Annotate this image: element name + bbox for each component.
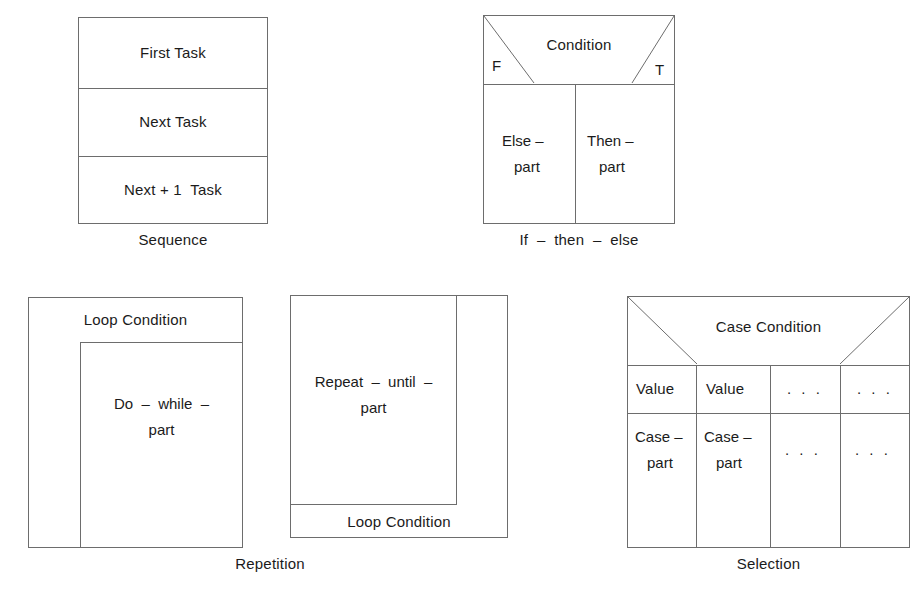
then-branch-line-2: part <box>587 154 625 180</box>
selection-case-cell-3: . . . <box>770 420 840 480</box>
repeat-until-body-line-1: Repeat – until – <box>315 369 433 395</box>
repeat-until-diagram: Repeat – until – part Loop Condition <box>290 295 508 538</box>
diagram-canvas: First Task Next Task Next + 1 Task Seque… <box>0 0 923 593</box>
if-then-else-caption: If – then – else <box>473 231 685 248</box>
true-marker: T <box>655 61 664 78</box>
condition-label: Condition <box>546 33 611 56</box>
repeat-until-loop-condition-cell: Loop Condition <box>290 505 508 538</box>
else-branch-cell: Else – part <box>483 84 575 224</box>
selection-case-cell-1: Case – part <box>627 420 696 480</box>
do-while-diagram: Loop Condition Do – while – part <box>28 297 243 548</box>
selection-value-row-divider <box>627 413 910 414</box>
else-branch-line-1: Else – <box>502 128 544 154</box>
case-condition-right-diagonal <box>840 297 909 364</box>
selection-case-cell-4: . . . <box>840 420 910 480</box>
repeat-until-loop-condition-label: Loop Condition <box>347 510 451 533</box>
sequence-row-1: First Task <box>78 17 268 88</box>
selection-case-line1-4: . . . <box>855 437 891 463</box>
sequence-row-2: Next Task <box>78 88 268 156</box>
sequence-row-1-label: First Task <box>140 41 206 64</box>
repeat-until-body-cell: Repeat – until – part <box>290 325 457 465</box>
selection-value-cell-3: . . . <box>770 365 840 413</box>
condition-label-cell: Condition <box>523 23 635 67</box>
selection-case-line2-1: part <box>635 450 673 476</box>
sequence-diagram: First Task Next Task Next + 1 Task <box>78 17 268 224</box>
selection-caption: Selection <box>627 555 910 572</box>
then-branch-line-1: Then – <box>587 128 634 154</box>
do-while-loop-condition-label: Loop Condition <box>84 308 188 331</box>
selection-value-label-2: Value <box>706 377 744 400</box>
repetition-caption: Repetition <box>180 555 360 572</box>
selection-value-label-1: Value <box>636 377 674 400</box>
sequence-caption: Sequence <box>78 231 268 248</box>
selection-value-label-4: . . . <box>857 377 893 400</box>
sequence-row-3-label: Next + 1 Task <box>124 178 222 201</box>
if-then-else-diagram: Condition F T Else – part Then – part <box>483 15 675 224</box>
selection-case-line1-2: Case – <box>704 424 752 450</box>
sequence-row-2-label: Next Task <box>139 110 206 133</box>
selection-case-line1-3: . . . <box>785 437 821 463</box>
selection-diagram: Case Condition Value Value . . . . . . C… <box>627 296 910 548</box>
do-while-body-line-2: part <box>149 417 175 443</box>
do-while-body-cell: Do – while – part <box>80 342 243 492</box>
false-marker: F <box>492 57 501 74</box>
selection-value-cell-1: Value <box>627 365 696 413</box>
do-while-body-line-1: Do – while – <box>114 391 209 417</box>
selection-value-label-3: . . . <box>787 377 823 400</box>
else-branch-line-2: part <box>502 154 540 180</box>
then-branch-cell: Then – part <box>575 84 675 224</box>
selection-value-cell-2: Value <box>696 365 770 413</box>
selection-case-cell-2: Case – part <box>696 420 770 480</box>
selection-case-line2-2: part <box>704 450 742 476</box>
selection-value-cell-4: . . . <box>840 365 910 413</box>
condition-right-diagonal <box>632 16 674 83</box>
selection-case-line1-1: Case – <box>635 424 683 450</box>
sequence-row-3: Next + 1 Task <box>78 156 268 224</box>
do-while-loop-condition-cell: Loop Condition <box>28 297 243 342</box>
repeat-until-body-line-2: part <box>361 395 387 421</box>
case-condition-label-cell: Case Condition <box>687 304 850 350</box>
case-condition-label: Case Condition <box>716 315 821 338</box>
